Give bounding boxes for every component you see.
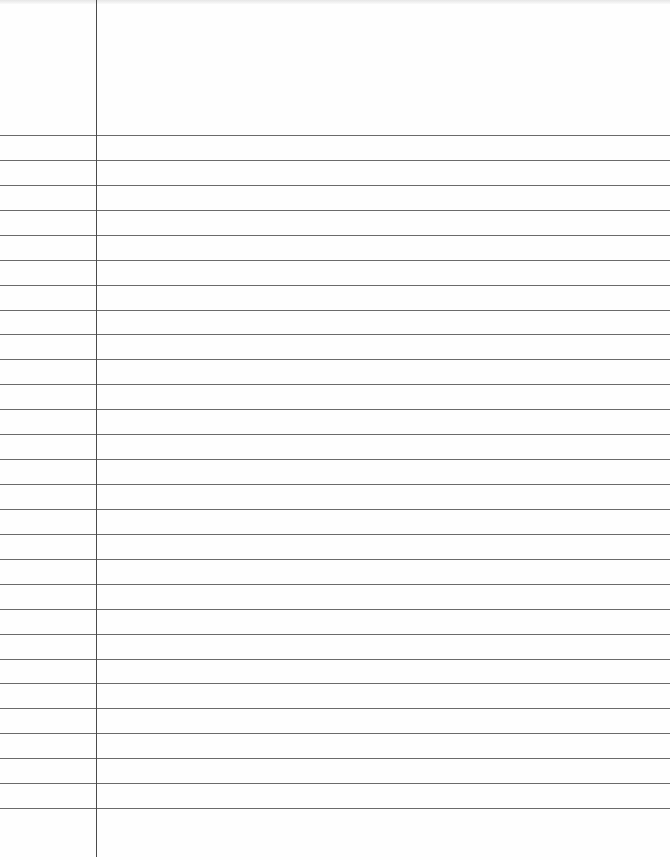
ruled-line bbox=[0, 334, 670, 335]
ruled-line bbox=[0, 708, 670, 709]
ruled-line bbox=[0, 185, 670, 186]
ruled-line bbox=[0, 359, 670, 360]
ruled-line bbox=[0, 609, 670, 610]
ruled-line bbox=[0, 584, 670, 585]
ruled-line bbox=[0, 260, 670, 261]
ruled-line bbox=[0, 160, 670, 161]
ruled-line bbox=[0, 310, 670, 311]
top-edge-shadow bbox=[0, 0, 670, 4]
ruled-line bbox=[0, 135, 670, 136]
ruled-line bbox=[0, 484, 670, 485]
ruled-line bbox=[0, 210, 670, 211]
ruled-line bbox=[0, 634, 670, 635]
ruled-line bbox=[0, 434, 670, 435]
ruled-line bbox=[0, 285, 670, 286]
ruled-line bbox=[0, 659, 670, 660]
ruled-line bbox=[0, 384, 670, 385]
ruled-line bbox=[0, 733, 670, 734]
ruled-line bbox=[0, 808, 670, 809]
ruled-line bbox=[0, 758, 670, 759]
ruled-line bbox=[0, 559, 670, 560]
ruled-line bbox=[0, 783, 670, 784]
ruled-line bbox=[0, 534, 670, 535]
ruled-line bbox=[0, 459, 670, 460]
ruled-line bbox=[0, 235, 670, 236]
margin-line bbox=[96, 0, 97, 857]
lined-paper bbox=[0, 0, 670, 860]
ruled-line bbox=[0, 683, 670, 684]
ruled-line bbox=[0, 509, 670, 510]
ruled-line bbox=[0, 409, 670, 410]
